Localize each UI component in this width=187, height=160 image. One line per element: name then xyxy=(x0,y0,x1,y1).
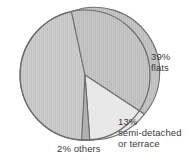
pie-label-semi-detached-percent: 13% xyxy=(118,116,182,127)
pie-label-flats-percent: 39% xyxy=(151,51,170,62)
pie-label-others-text: 2% others xyxy=(57,143,101,154)
pie-label-flats: 39% flats xyxy=(151,51,170,73)
pie-label-flats-name: flats xyxy=(151,62,170,73)
pie-label-semi-detached: 13% semi-detached or terrace xyxy=(118,116,182,149)
pie-label-semi-detached-name-line1: semi-detached xyxy=(118,127,182,138)
pie-label-semi-detached-name-line2: or terrace xyxy=(118,138,182,149)
pie-label-others: 2% others xyxy=(57,143,101,154)
pie-chart: 39% flats 13% semi-detached or terrace 2… xyxy=(0,0,187,160)
